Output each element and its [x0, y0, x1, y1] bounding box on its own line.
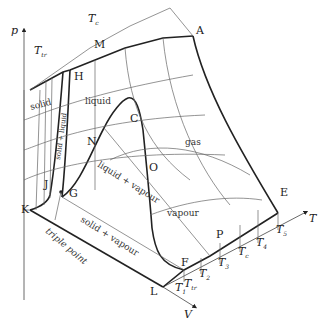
point-p: P [216, 228, 224, 241]
point-a: A [195, 24, 205, 37]
point-k: K [21, 203, 30, 216]
point-c: C [130, 112, 138, 125]
label-t2: T2 [199, 267, 210, 281]
region-gas: gas [185, 137, 201, 147]
region-solid: solid [29, 97, 53, 112]
label-t4: T4 [256, 236, 267, 250]
point-l: L [150, 285, 158, 298]
triple-point-leader [55, 192, 61, 220]
point-o: O [149, 161, 158, 174]
label-t3: T3 [218, 256, 229, 270]
v-axis-label: V [184, 308, 193, 321]
point-h: H [74, 70, 84, 83]
edge-el [163, 213, 278, 287]
point-j: J [43, 178, 48, 191]
point-f: F [181, 256, 189, 269]
region-liquid: liquid [85, 96, 111, 106]
label-ttr: Ttr [184, 277, 198, 291]
point-e: E [280, 186, 288, 199]
p-axis-label: p [11, 24, 18, 37]
label-t5: T5 [276, 223, 287, 237]
region-solid-vapour: solid + vapour [79, 214, 141, 258]
isotherm-ae [193, 36, 278, 213]
label-ttr-top: Ttr [34, 44, 48, 58]
point-g: G [69, 187, 78, 200]
pvt-surface-diagram: p V T A M H C N O J G K L F P E solid li… [0, 0, 333, 334]
t-axis [163, 212, 306, 287]
t-axis-label: T [309, 212, 318, 225]
label-tc-top: Tc [88, 12, 99, 26]
point-m: M [94, 38, 105, 51]
point-n: N [87, 135, 97, 148]
top-edge [30, 36, 193, 90]
label-tc: Tc [238, 245, 249, 259]
region-vapour: vapour [166, 208, 199, 218]
back-edge [30, 8, 193, 90]
